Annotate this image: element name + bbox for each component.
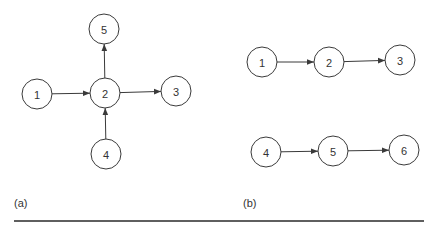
- node-6: 6: [389, 135, 419, 165]
- figure-canvas: 51234(a)123456(b): [0, 0, 438, 226]
- node-label: 6: [401, 145, 407, 157]
- node-4: 4: [251, 137, 281, 167]
- edge-4-to-2: [105, 108, 106, 139]
- node-label: 1: [259, 57, 265, 69]
- node-4: 4: [91, 139, 121, 169]
- edge-2-to-3: [344, 60, 385, 61]
- node-label: 3: [397, 55, 403, 67]
- panel-b: 123456(b): [243, 45, 419, 209]
- edge-2-to-3: [120, 91, 161, 92]
- edge-2-to-5: [104, 44, 105, 78]
- node-1: 1: [22, 79, 52, 109]
- panel-label-a: (a): [14, 197, 27, 209]
- node-5: 5: [318, 136, 348, 166]
- node-2: 2: [90, 78, 120, 108]
- node-label: 4: [103, 149, 109, 161]
- panel-a: 51234(a): [14, 14, 191, 209]
- panels: 51234(a)123456(b): [14, 14, 419, 209]
- node-5: 5: [89, 14, 119, 44]
- node-1: 1: [247, 47, 277, 77]
- node-label: 3: [173, 86, 179, 98]
- node-label: 5: [101, 24, 107, 36]
- node-3: 3: [161, 76, 191, 106]
- node-label: 2: [326, 57, 332, 69]
- node-label: 4: [263, 147, 269, 159]
- panel-label-b: (b): [243, 197, 256, 209]
- node-3: 3: [385, 45, 415, 75]
- edge-4-to-5: [281, 151, 318, 152]
- node-label: 2: [102, 88, 108, 100]
- edge-5-to-6: [348, 150, 389, 151]
- edge-1-to-2: [52, 93, 90, 94]
- node-label: 1: [34, 89, 40, 101]
- node-2: 2: [314, 47, 344, 77]
- node-label: 5: [330, 146, 336, 158]
